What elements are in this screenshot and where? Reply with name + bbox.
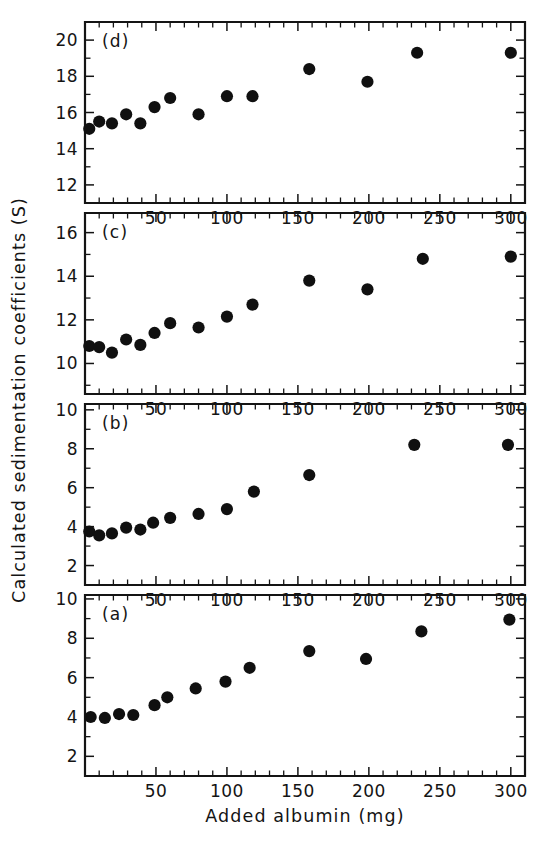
panel-d-datapoint: [134, 117, 146, 129]
panel-c-datapoint: [417, 253, 429, 265]
panel-d-axis-frame: [85, 22, 525, 203]
panel-a-datapoint: [148, 699, 160, 711]
panel-a-datapoint: [303, 645, 315, 657]
panel-b-yticklabel-10: 10: [56, 400, 78, 420]
panel-d-datapoint: [361, 76, 373, 88]
panel-c-datapoint: [164, 317, 176, 329]
panel-a-datapoint: [85, 711, 97, 723]
panel-b: 50100150200250300246810(b): [56, 400, 528, 610]
panel-a-yticklabel-6: 6: [67, 668, 78, 688]
panel-c-axis-frame: [85, 213, 525, 394]
panel-d-datapoint: [93, 115, 105, 127]
panel-a-xticklabel-150: 150: [281, 781, 315, 801]
panel-c-datapoint: [134, 339, 146, 351]
panel-c-yticklabel-14: 14: [56, 266, 78, 286]
panel-c-datapoint: [93, 341, 105, 353]
panel-a-xticklabel-250: 250: [423, 781, 457, 801]
panel-d-series: [83, 47, 517, 135]
panel-b-yticklabel-8: 8: [67, 439, 78, 459]
panel-a-datapoint: [503, 613, 515, 625]
panel-b-datapoint: [134, 523, 146, 535]
panel-d-datapoint: [164, 92, 176, 104]
panel-a-series: [85, 613, 516, 724]
panel-a-xticklabel-200: 200: [352, 781, 386, 801]
panel-c-datapoint: [148, 327, 160, 339]
panel-b-yticklabel-6: 6: [67, 478, 78, 498]
panel-d-datapoint: [505, 47, 517, 59]
panel-d-datapoint: [221, 90, 233, 102]
panel-b-datapoint: [93, 529, 105, 541]
multi-panel-scatter-figure: 501001502002503001214161820(d)5010015020…: [0, 0, 549, 847]
x-axis-title: Added albumin (mg): [205, 806, 404, 826]
panel-c-datapoint: [192, 321, 204, 333]
panel-b-yticklabel-2: 2: [67, 556, 78, 576]
y-axis-title: Calculated sedimentation coefficients (S…: [9, 197, 29, 603]
panel-d-datapoint: [83, 123, 95, 135]
panel-d-panel-label: (d): [102, 31, 130, 51]
panel-a-xticklabel-300: 300: [494, 781, 528, 801]
panel-b-datapoint: [408, 439, 420, 451]
panel-c-panel-label: (c): [102, 222, 128, 242]
panel-d-yticklabel-12: 12: [56, 175, 78, 195]
panel-b-axis-frame: [85, 404, 525, 585]
panel-c-datapoint: [120, 333, 132, 345]
panel-a-yticklabel-4: 4: [67, 707, 78, 727]
panel-d-yticklabel-20: 20: [56, 30, 78, 50]
panel-c-datapoint: [221, 310, 233, 322]
panel-a-datapoint: [219, 675, 231, 687]
panel-d-yticklabel-14: 14: [56, 139, 78, 159]
panel-c-datapoint: [361, 283, 373, 295]
panel-b-datapoint: [164, 512, 176, 524]
panel-a-datapoint: [360, 653, 372, 665]
cropped-header-text: [275, 0, 280, 12]
panel-c-yticklabel-10: 10: [56, 353, 78, 373]
panel-a-yticklabel-10: 10: [56, 589, 78, 609]
panel-a-datapoint: [244, 662, 256, 674]
panel-b-yticklabel-4: 4: [67, 517, 78, 537]
panel-d-yticklabel-18: 18: [56, 66, 78, 86]
panel-d-datapoint: [192, 108, 204, 120]
panel-d: 501001502002503001214161820(d): [56, 22, 528, 228]
panel-d-datapoint: [303, 63, 315, 75]
panel-c-yticklabel-16: 16: [56, 223, 78, 243]
panel-a-datapoint: [127, 709, 139, 721]
panel-a-axis-frame: [85, 595, 525, 776]
panel-a-datapoint: [190, 682, 202, 694]
panel-d-datapoint: [148, 101, 160, 113]
panel-a-xticklabel-100: 100: [210, 781, 244, 801]
panel-c-datapoint: [505, 251, 517, 263]
panel-b-datapoint: [106, 527, 118, 539]
panel-d-datapoint: [246, 90, 258, 102]
panel-a-datapoint: [113, 708, 125, 720]
panel-b-datapoint: [303, 469, 315, 481]
figure-root: 501001502002503001214161820(d)5010015020…: [0, 0, 549, 847]
panel-a-yticklabel-2: 2: [67, 746, 78, 766]
panel-a-yticklabel-8: 8: [67, 628, 78, 648]
panel-a-xticklabel-50: 50: [145, 781, 167, 801]
panel-b-datapoint: [248, 485, 260, 497]
panel-a: 50100150200250300246810(a): [56, 589, 528, 801]
panel-a-datapoint: [161, 691, 173, 703]
panel-a-datapoint: [99, 712, 111, 724]
panel-b-datapoint: [502, 439, 514, 451]
panel-c: 5010015020025030010121416(c): [56, 213, 528, 419]
panel-b-panel-label: (b): [102, 413, 130, 433]
panel-c-series: [83, 251, 517, 359]
panel-c-yticklabel-12: 12: [56, 310, 78, 330]
panel-a-datapoint: [415, 625, 427, 637]
panel-d-datapoint: [411, 47, 423, 59]
panel-b-datapoint: [147, 517, 159, 529]
panel-a-panel-label: (a): [102, 604, 129, 624]
panel-c-datapoint: [303, 275, 315, 287]
panel-b-datapoint: [192, 508, 204, 520]
panel-d-datapoint: [120, 108, 132, 120]
panel-c-datapoint: [246, 298, 258, 310]
panel-d-datapoint: [106, 117, 118, 129]
panel-d-yticklabel-16: 16: [56, 103, 78, 123]
panel-b-series: [83, 439, 514, 542]
panel-b-datapoint: [120, 521, 132, 533]
panel-c-datapoint: [106, 346, 118, 358]
panel-b-datapoint: [221, 503, 233, 515]
